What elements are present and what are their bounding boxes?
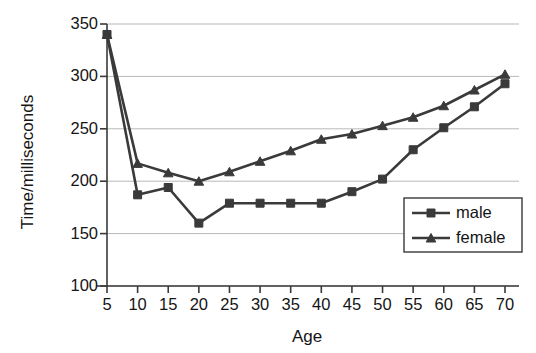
x-axis-title: Age [100, 327, 514, 347]
x-axis-ticks [107, 286, 505, 293]
data-point-marker [500, 70, 510, 79]
data-point-marker [470, 86, 480, 95]
data-point-marker [440, 124, 448, 132]
series-female [102, 30, 510, 185]
data-point-marker [348, 188, 356, 196]
data-point-marker [501, 80, 509, 88]
data-point-marker [256, 199, 264, 207]
data-point-marker [317, 199, 325, 207]
y-tick-label: 150 [50, 224, 98, 243]
y-tick-label: 350 [50, 14, 98, 33]
data-point-marker [164, 183, 172, 191]
data-point-marker [409, 146, 417, 154]
y-tick-label: 250 [50, 119, 98, 138]
y-tick-label: 100 [50, 276, 98, 295]
legend-label-male[interactable]: male [456, 203, 492, 222]
line-chart: Time/milliseconds Age 100150200250300350… [0, 0, 536, 353]
data-point-marker [287, 199, 295, 207]
data-point-marker [225, 199, 233, 207]
y-axis-ticks [100, 24, 107, 286]
y-axis-title: Time/milliseconds [18, 52, 38, 272]
x-tick-label: 70 [485, 295, 525, 314]
data-point-marker [195, 219, 203, 227]
y-tick-label: 200 [50, 171, 98, 190]
y-tick-label: 300 [50, 66, 98, 85]
data-point-marker [439, 101, 449, 110]
legend-label-female[interactable]: female [456, 228, 506, 247]
data-point-marker [379, 175, 387, 183]
legend-marker-male [427, 209, 435, 217]
data-point-marker [470, 103, 478, 111]
data-point-marker [134, 191, 142, 199]
